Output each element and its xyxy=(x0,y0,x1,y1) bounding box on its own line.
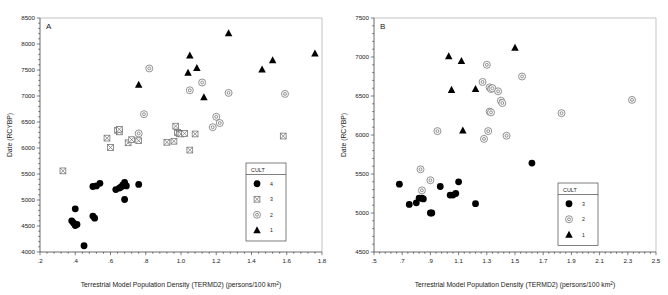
data-point-crossed-square xyxy=(60,168,66,174)
x-tick-label: 2.1 xyxy=(595,257,604,264)
data-point-filled-triangle xyxy=(311,49,318,56)
x-tick-label: 1.3 xyxy=(482,257,491,264)
data-point-crossed-square xyxy=(136,138,142,144)
legend-label: 2 xyxy=(582,216,585,222)
x-tick-label: 1.7 xyxy=(539,257,548,264)
y-tick-label: 5000 xyxy=(355,209,369,216)
x-tick-label: 1.2 xyxy=(212,257,221,264)
panel-a: 4000450050005500600065007000750080008500… xyxy=(0,0,334,295)
data-point-target-circle xyxy=(480,135,487,142)
x-tick-label: 1.4 xyxy=(247,257,256,264)
x-tick-label: 1.8 xyxy=(318,257,327,264)
data-point-target-circle xyxy=(488,109,495,116)
y-tick-label: 4500 xyxy=(21,222,35,229)
y-tick-label: 7500 xyxy=(21,66,35,73)
data-point-target-circle xyxy=(213,113,220,120)
data-point-target-circle xyxy=(519,73,526,80)
data-point-filled-circle xyxy=(406,201,413,208)
data-series-group xyxy=(396,44,636,217)
data-point-filled-triangle xyxy=(200,93,207,100)
data-point-filled-circle xyxy=(396,181,403,188)
y-tick-label: 6500 xyxy=(355,92,369,99)
data-point-target-circle xyxy=(186,87,193,94)
legend-marker-target-circle xyxy=(566,216,573,223)
data-point-filled-triangle xyxy=(186,52,193,59)
legend-label: 2 xyxy=(270,212,273,218)
data-point-filled-circle xyxy=(529,160,536,167)
data-point-target-circle xyxy=(485,128,492,135)
data-point-filled-circle xyxy=(455,178,462,185)
x-tick-label: .9 xyxy=(428,257,434,264)
data-point-filled-triangle xyxy=(135,81,142,88)
data-point-crossed-square xyxy=(171,138,177,144)
y-tick-label: 5000 xyxy=(21,196,35,203)
data-point-crossed-square xyxy=(192,131,198,137)
data-point-target-circle xyxy=(434,128,441,135)
data-point-filled-circle xyxy=(91,215,98,222)
data-point-filled-circle xyxy=(121,196,128,203)
data-point-target-circle xyxy=(427,177,434,184)
legend-title: CULT xyxy=(563,187,577,193)
data-point-filled-circle xyxy=(452,190,459,197)
y-tick-label: 6500 xyxy=(21,118,35,125)
y-tick-label: 8500 xyxy=(21,14,35,21)
data-point-target-circle xyxy=(209,124,216,131)
series-2 xyxy=(135,65,288,137)
data-point-crossed-square xyxy=(129,137,135,143)
data-point-filled-triangle xyxy=(445,52,452,59)
data-point-crossed-square xyxy=(104,135,110,141)
x-tick-label: 1.1 xyxy=(454,257,463,264)
y-axis-title: Date (RCYBP) xyxy=(6,113,14,157)
x-tick-label: 2.5 xyxy=(652,257,661,264)
data-point-target-circle xyxy=(418,187,425,194)
series-1 xyxy=(445,44,519,134)
y-tick-label: 6000 xyxy=(21,144,35,151)
legend-label: 4 xyxy=(270,181,273,187)
data-point-filled-circle xyxy=(437,183,444,190)
data-point-target-circle xyxy=(503,132,510,139)
x-tick-label: 1.5 xyxy=(511,257,520,264)
legend: CULT4321 xyxy=(246,163,286,241)
panel-a-plot: 4000450050005500600065007000750080008500… xyxy=(0,0,334,295)
data-point-filled-circle xyxy=(472,200,479,207)
data-point-filled-circle xyxy=(123,183,130,190)
data-point-filled-circle xyxy=(428,210,435,217)
data-point-target-circle xyxy=(417,166,424,173)
x-tick-label: .2 xyxy=(37,257,43,264)
data-point-filled-triangle xyxy=(258,66,265,73)
legend-marker-filled-circle xyxy=(566,200,573,207)
data-point-crossed-square xyxy=(182,131,188,137)
x-tick-label: .8 xyxy=(143,257,149,264)
panel-b: 4500500055006000650070007500.5.7.91.11.3… xyxy=(334,0,668,295)
data-point-filled-triangle xyxy=(472,85,479,92)
data-point-filled-triangle xyxy=(225,29,232,36)
figure-container: 4000450050005500600065007000750080008500… xyxy=(0,0,668,295)
data-point-crossed-square xyxy=(187,147,193,153)
x-tick-label: 1.6 xyxy=(282,257,291,264)
data-point-crossed-square xyxy=(108,145,114,151)
data-point-target-circle xyxy=(140,111,147,118)
data-point-target-circle xyxy=(483,61,490,68)
data-point-filled-triangle xyxy=(193,64,200,71)
y-tick-label: 4500 xyxy=(355,248,369,255)
x-tick-label: .5 xyxy=(371,257,377,264)
y-tick-label: 7000 xyxy=(21,92,35,99)
x-tick-label: 1.9 xyxy=(567,257,576,264)
data-point-filled-circle xyxy=(420,196,427,203)
x-tick-label: .6 xyxy=(108,257,114,264)
data-point-filled-triangle xyxy=(458,57,465,64)
x-tick-label: 1.0 xyxy=(177,257,186,264)
data-point-target-circle xyxy=(225,89,232,96)
legend-label: 1 xyxy=(582,232,585,238)
data-point-target-circle xyxy=(135,130,142,137)
data-point-crossed-square xyxy=(164,139,170,145)
legend-label: 1 xyxy=(270,227,273,233)
panel-b-plot: 4500500055006000650070007500.5.7.91.11.3… xyxy=(334,0,668,295)
data-point-target-circle xyxy=(558,110,565,117)
legend-label: 3 xyxy=(582,201,585,207)
data-point-filled-triangle xyxy=(459,126,466,133)
data-point-target-circle xyxy=(479,78,486,85)
panel-letter: B xyxy=(380,22,385,31)
y-tick-label: 6000 xyxy=(355,131,369,138)
data-point-crossed-square xyxy=(280,133,286,139)
